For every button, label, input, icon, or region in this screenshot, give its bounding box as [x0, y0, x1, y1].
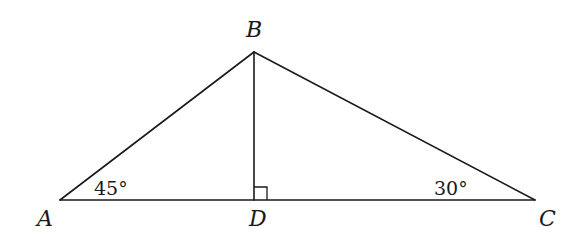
right-angle-marker-icon	[254, 187, 267, 200]
vertex-label-b: B	[245, 17, 262, 42]
segment-bc	[254, 52, 535, 200]
vertex-label-c: C	[539, 206, 556, 231]
angle-label-c: 30°	[434, 177, 468, 199]
vertex-label-a: A	[35, 206, 53, 231]
segment-ab	[60, 52, 254, 200]
vertex-label-d: D	[248, 206, 267, 231]
angle-label-a: 45°	[94, 177, 128, 199]
triangle-diagram: B A D C 45° 30°	[0, 0, 584, 241]
